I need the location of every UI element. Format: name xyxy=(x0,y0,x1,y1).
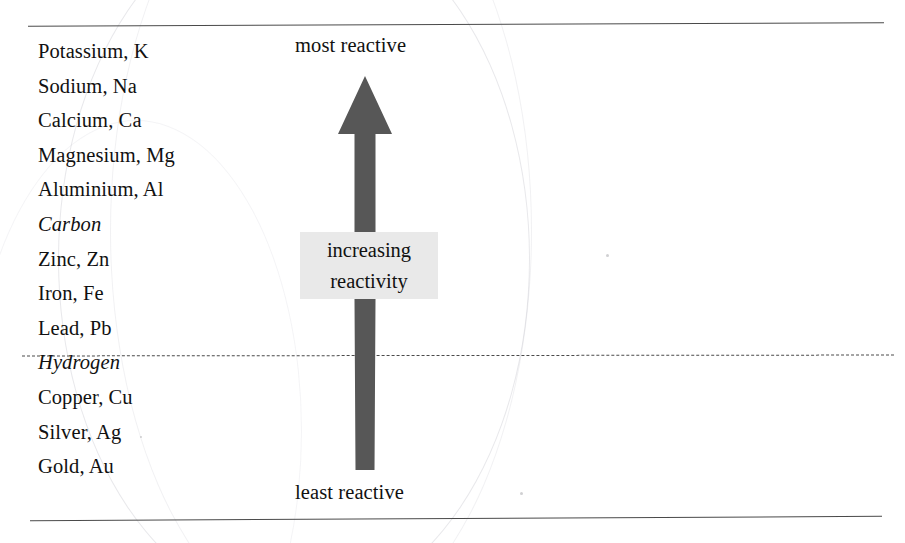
list-item: Carbon xyxy=(38,207,288,242)
list-item: Potassium, K xyxy=(38,34,288,69)
scan-speck xyxy=(606,254,609,257)
list-item: Copper, Cu xyxy=(38,380,288,415)
list-item: Aluminium, Al xyxy=(38,172,288,207)
list-item: Gold, Au xyxy=(38,449,288,484)
scan-speck xyxy=(520,492,523,495)
increasing-reactivity-label-line2: reactivity xyxy=(330,266,407,297)
list-item: Iron, Fe xyxy=(38,276,288,311)
list-item: Zinc, Zn xyxy=(38,242,288,277)
top-rule xyxy=(28,22,884,26)
list-item: Sodium, Na xyxy=(38,69,288,104)
most-reactive-label: most reactive xyxy=(295,34,406,57)
increasing-reactivity-label: increasing reactivity xyxy=(300,232,438,299)
list-item: Silver, Ag xyxy=(38,415,288,450)
list-item: Calcium, Ca xyxy=(38,103,288,138)
reactivity-series-figure: Potassium, K Sodium, Na Calcium, Ca Magn… xyxy=(0,0,905,543)
list-item: Lead, Pb xyxy=(38,311,288,346)
least-reactive-label: least reactive xyxy=(295,481,404,504)
reactivity-series-list: Potassium, K Sodium, Na Calcium, Ca Magn… xyxy=(38,34,288,484)
list-item: Hydrogen xyxy=(38,345,288,380)
bottom-rule xyxy=(30,516,882,521)
list-item: Magnesium, Mg xyxy=(38,138,288,173)
increasing-reactivity-label-line1: increasing xyxy=(327,235,411,266)
